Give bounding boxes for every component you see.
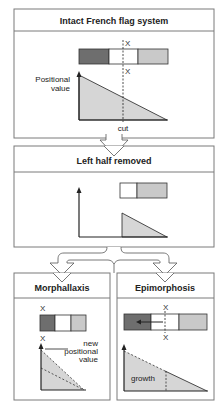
french-flag-diagram: Intact French flag system X X cut Positi… [0, 0, 223, 413]
cut-label: cut [118, 124, 129, 133]
panel-morphallaxis: Morphallaxis X X new positional value [14, 273, 110, 400]
marker-bottom: X [163, 333, 169, 342]
panel-title-morphallaxis: Morphallaxis [34, 283, 89, 293]
panel-title-intact: Intact French flag system [60, 16, 169, 26]
growth-label: growth [131, 374, 155, 383]
panel-left-half-removed: Left half removed [14, 146, 214, 247]
panel-title-epimorphosis: Epimorphosis [135, 283, 195, 293]
panel-intact: Intact French flag system X X cut Positi… [14, 9, 214, 138]
flag-bar-morphallaxis [40, 315, 86, 331]
flag-bar-intact [79, 49, 168, 64]
annotation-value: value [79, 355, 99, 364]
branch-arrow-icon [50, 247, 177, 275]
panel-epimorphosis: Epimorphosis X X growth [117, 273, 214, 400]
cut-marker-bottom: X [125, 67, 131, 76]
cut-marker-top: X [125, 39, 131, 48]
axis-label-value: value [51, 84, 71, 93]
marker-top: X [40, 304, 46, 313]
marker-bottom: X [40, 334, 46, 343]
panel-title-left-half: Left half removed [76, 156, 151, 166]
flag-bar-remaining [120, 183, 167, 198]
axis-label-positional: Positional [35, 75, 70, 84]
marker-top: X [163, 303, 169, 312]
